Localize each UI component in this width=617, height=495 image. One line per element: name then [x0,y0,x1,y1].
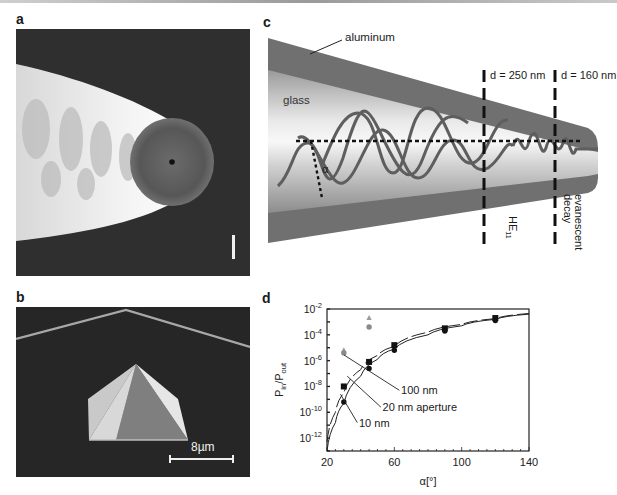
y-tick-label: 10-4 [304,327,322,341]
triangle-marker [366,315,371,320]
square-marker [391,342,397,348]
aluminum-label: aluminum [345,31,395,43]
y-tick-label: 10-2 [304,301,322,315]
panel-c-label: c [263,15,271,29]
annotation-pointer [340,394,357,422]
x-tick-label: 60 [388,456,400,468]
plot-frame [327,309,529,451]
10-nm-fit-curve [327,314,529,451]
panel-b-label: b [16,290,25,304]
square-marker [341,383,347,389]
transmission-chart: 206010014010-210-410-610-810-1010-12α[°]… [268,288,617,495]
svg-text:decay: decay [562,194,574,224]
annotation-label: 10 nm [359,417,390,429]
d-160-label: d = 160 nm [561,69,616,81]
svg-text:HE11: HE11 [505,216,519,239]
circle-marker [442,328,447,333]
panel-a-label: a [16,12,24,26]
circle-marker [366,324,371,329]
annotation-pointer [347,376,381,407]
waveguide-schematic: aluminum glass α d = 250 nm d = 160 nm H… [268,28,617,278]
fiber-tip-image [16,29,250,276]
d-250-label: d = 250 nm [490,69,545,81]
x-axis-label: α[°] [420,475,437,487]
y-axis-label: Pin/Pout [273,362,288,397]
top-rule [0,0,617,3]
annotation-label: 100 nm [401,384,438,396]
panel-a-sem-fiber-tip [16,29,250,276]
scale-bar-label: 8µm [191,440,215,454]
mode-label: HE11 [505,216,519,239]
y-tick-label: 10-10 [299,404,322,418]
panel-d-transmission-chart: 206010014010-210-410-610-810-1010-12α[°]… [268,288,617,495]
circle-marker [341,350,346,355]
pyramid-probe-image: 8µm [16,307,250,477]
circle-marker [392,348,397,353]
x-tick-label: 140 [520,456,538,468]
x-tick-label: 20 [321,456,333,468]
panel-c-fiber-schematic: aluminum glass α d = 250 nm d = 160 nm H… [268,28,617,278]
evanescent-decay-label: evanescent decay [562,194,585,250]
y-tick-label: 10-12 [299,430,322,444]
circle-marker [493,318,498,323]
y-tick-label: 10-6 [304,353,322,367]
alpha-label: α [322,163,329,175]
scale-bar [232,235,235,259]
glass-label: glass [283,94,310,106]
panel-b-sem-pyramid-probe: 8µm [16,307,250,477]
y-tick-label: 10-8 [304,378,322,392]
x-tick-label: 100 [452,456,470,468]
fit-curves [327,314,529,451]
100-nm-fit-curve [327,314,529,442]
annotations: 100 nm20 nm aperture10 nm [340,355,457,429]
annotation-label: 20 nm aperture [383,401,458,413]
square-marker [366,359,372,365]
